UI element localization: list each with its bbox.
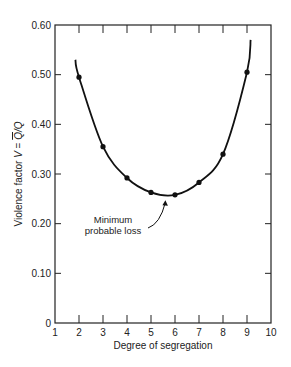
svg-text:Violence factor V = Q/Q: Violence factor V = Q/Q <box>13 121 24 226</box>
x-tick-label: 4 <box>124 327 130 338</box>
data-point <box>196 180 201 185</box>
x-tick-label: 1 <box>52 327 58 338</box>
data-point <box>148 190 153 195</box>
x-tick-label: 10 <box>265 327 277 338</box>
y-axis-label: Violence factor V = Q/Q <box>13 121 24 226</box>
x-tick-label: 8 <box>220 327 226 338</box>
annotation-arrow <box>148 202 165 228</box>
data-point <box>76 75 81 80</box>
y-tick-label: 0.20 <box>32 218 52 229</box>
chart: 00.100.200.300.400.500.60 12345678910 Mi… <box>0 0 291 367</box>
x-tick-label: 5 <box>148 327 154 338</box>
y-tick-label: 0 <box>45 318 51 329</box>
y-tick-label: 0.10 <box>32 268 52 279</box>
x-tick-label: 9 <box>244 327 250 338</box>
data-points <box>76 70 249 198</box>
annotation-line-2: probable loss <box>85 225 142 236</box>
x-tick-label: 3 <box>100 327 106 338</box>
data-curve <box>75 40 250 196</box>
y-tick-label: 0.50 <box>32 69 52 80</box>
y-axis: 00.100.200.300.400.500.60 <box>32 20 271 329</box>
x-tick-label: 7 <box>196 327 202 338</box>
x-tick-label: 2 <box>76 327 82 338</box>
data-point <box>124 175 129 180</box>
x-axis: 12345678910 <box>52 25 277 338</box>
data-point <box>220 152 225 157</box>
data-point <box>244 70 249 75</box>
x-axis-label: Degree of segregation <box>114 340 213 351</box>
x-tick-label: 6 <box>172 327 178 338</box>
arrowhead-icon <box>162 200 168 206</box>
y-tick-label: 0.30 <box>32 169 52 180</box>
y-tick-label: 0.40 <box>32 119 52 130</box>
annotation-line-1: Minimum <box>94 214 133 225</box>
data-point <box>100 144 105 149</box>
y-axis-label-text: Violence factor <box>13 158 24 227</box>
y-tick-label: 0.60 <box>32 20 52 31</box>
plot-frame <box>55 25 271 323</box>
annotation-minimum-probable-loss: Minimumprobable loss <box>85 200 168 236</box>
data-point <box>172 192 177 197</box>
